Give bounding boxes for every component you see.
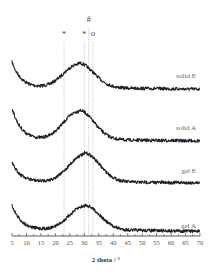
x-axis: 510152025303540455055606570: [10, 233, 203, 246]
series-label: gel A: [181, 222, 196, 230]
x-tick-label: 55: [153, 239, 160, 246]
x-tick-label: 70: [197, 239, 204, 246]
x-tick-label: 45: [124, 239, 131, 246]
peak-marker: o: [91, 28, 96, 38]
traces: [12, 60, 200, 232]
series-label: gel E: [181, 167, 196, 175]
x-tick-label: 35: [96, 239, 103, 246]
x-tick-label: 25: [67, 239, 74, 246]
trace-gel-a: [12, 204, 200, 233]
series-label: solid A: [176, 124, 196, 132]
trace-solid-a: [12, 109, 200, 142]
x-tick-label: 30: [81, 239, 88, 246]
x-axis-label: 2 theta / °: [92, 256, 121, 264]
peak-markers: **#o: [62, 14, 96, 39]
x-tick-label: 10: [23, 239, 30, 246]
peak-marker: *: [62, 29, 67, 39]
peak-marker: #: [86, 14, 91, 24]
x-tick-label: 50: [139, 239, 146, 246]
peak-marker: *: [82, 29, 87, 39]
trace-gel-e: [12, 151, 200, 184]
series-label: solid E: [176, 72, 196, 80]
x-tick-label: 65: [182, 239, 189, 246]
reference-lines: [64, 28, 93, 236]
x-tick-label: 20: [52, 239, 59, 246]
x-tick-label: 15: [38, 239, 45, 246]
x-tick-label: 5: [10, 239, 13, 246]
trace-solid-e: [12, 60, 200, 90]
series-labels: solid Esolid Agel Egel A: [176, 72, 196, 230]
xrd-chart: **#o solid Esolid Agel Egel A 5101520253…: [0, 0, 215, 272]
x-tick-label: 40: [110, 239, 117, 246]
x-tick-label: 60: [168, 239, 175, 246]
